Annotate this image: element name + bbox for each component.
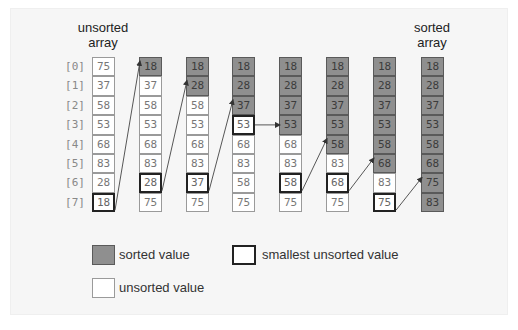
unsorted-value-cell: 53 — [92, 115, 115, 134]
index-label: [5] — [58, 154, 92, 173]
unsorted-value-cell: 37 — [92, 76, 115, 95]
smallest-value-cell: 75 — [373, 193, 396, 212]
unsorted-value-cell: 75 — [186, 193, 209, 212]
unsorted-value-cell: 37 — [139, 76, 162, 95]
legend-smallest-swatch — [232, 245, 256, 265]
unsorted-value-cell: 83 — [92, 154, 115, 173]
sorted-value-cell: 18 — [139, 57, 162, 76]
index-label: [7] — [58, 193, 92, 212]
legend-unsorted-swatch — [92, 278, 115, 298]
sorted-header-line2: array — [397, 35, 467, 50]
unsorted-value-cell: 68 — [139, 135, 162, 154]
sorted-value-cell: 28 — [326, 76, 349, 95]
smallest-value-cell: 53 — [232, 115, 255, 134]
unsorted-value-cell: 83 — [232, 154, 255, 173]
sorted-value-cell: 83 — [421, 193, 444, 212]
unsorted-value-cell: 28 — [92, 173, 115, 192]
sorted-value-cell: 18 — [232, 57, 255, 76]
smallest-value-cell: 28 — [139, 173, 162, 192]
sorted-value-cell: 37 — [279, 96, 302, 115]
sorted-header-line1: sorted — [397, 20, 467, 35]
unsorted-header-line1: unsorted — [68, 20, 138, 35]
smallest-value-cell: 37 — [186, 173, 209, 192]
sorted-value-cell: 18 — [421, 57, 444, 76]
legend-sorted-swatch — [92, 245, 115, 265]
unsorted-value-cell: 83 — [186, 154, 209, 173]
index-label: [1] — [58, 76, 92, 95]
legend-sorted-label: sorted value — [119, 245, 190, 265]
smallest-value-cell: 18 — [92, 193, 115, 212]
unsorted-value-cell: 68 — [279, 135, 302, 154]
unsorted-array-header: unsorted array — [68, 20, 138, 50]
index-label: [3] — [58, 115, 92, 134]
sorted-value-cell: 28 — [421, 76, 444, 95]
legend-smallest-label: smallest unsorted value — [262, 245, 399, 265]
unsorted-value-cell: 68 — [92, 135, 115, 154]
sorted-value-cell: 18 — [279, 57, 302, 76]
unsorted-value-cell: 58 — [232, 173, 255, 192]
unsorted-value-cell: 83 — [326, 154, 349, 173]
sorted-value-cell: 18 — [326, 57, 349, 76]
unsorted-value-cell: 75 — [232, 193, 255, 212]
sorted-value-cell: 28 — [373, 76, 396, 95]
index-label: [6] — [58, 173, 92, 192]
unsorted-value-cell: 68 — [232, 135, 255, 154]
unsorted-value-cell: 75 — [279, 193, 302, 212]
unsorted-value-cell: 83 — [279, 154, 302, 173]
sorted-value-cell: 68 — [373, 154, 396, 173]
sorted-value-cell: 37 — [232, 96, 255, 115]
legend-unsorted-label: unsorted value — [119, 278, 204, 298]
index-label: [4] — [58, 135, 92, 154]
unsorted-value-cell: 58 — [186, 96, 209, 115]
sorted-value-cell: 75 — [421, 173, 444, 192]
sorted-value-cell: 58 — [421, 135, 444, 154]
unsorted-value-cell: 75 — [326, 193, 349, 212]
sorted-value-cell: 68 — [421, 154, 444, 173]
sorted-value-cell: 53 — [326, 115, 349, 134]
sorted-value-cell: 37 — [326, 96, 349, 115]
sorted-value-cell: 37 — [373, 96, 396, 115]
sorted-value-cell: 58 — [326, 135, 349, 154]
index-label: [2] — [58, 96, 92, 115]
sorted-value-cell: 28 — [186, 76, 209, 95]
sorted-value-cell: 37 — [421, 96, 444, 115]
unsorted-value-cell: 58 — [92, 96, 115, 115]
sorted-array-header: sorted array — [397, 20, 467, 50]
unsorted-value-cell: 75 — [92, 57, 115, 76]
smallest-value-cell: 68 — [326, 173, 349, 192]
sorted-value-cell: 53 — [373, 115, 396, 134]
sorted-value-cell: 53 — [421, 115, 444, 134]
unsorted-value-cell: 68 — [186, 135, 209, 154]
index-label: [0] — [58, 57, 92, 76]
smallest-value-cell: 58 — [279, 173, 302, 192]
unsorted-value-cell: 53 — [139, 115, 162, 134]
unsorted-value-cell: 83 — [373, 173, 396, 192]
unsorted-value-cell: 75 — [139, 193, 162, 212]
sorted-value-cell: 28 — [232, 76, 255, 95]
sorted-value-cell: 18 — [373, 57, 396, 76]
sorted-value-cell: 53 — [279, 115, 302, 134]
unsorted-value-cell: 58 — [139, 96, 162, 115]
sorted-value-cell: 58 — [373, 135, 396, 154]
unsorted-header-line2: array — [68, 35, 138, 50]
sorted-value-cell: 28 — [279, 76, 302, 95]
sorted-value-cell: 18 — [186, 57, 209, 76]
unsorted-value-cell: 83 — [139, 154, 162, 173]
unsorted-value-cell: 53 — [186, 115, 209, 134]
